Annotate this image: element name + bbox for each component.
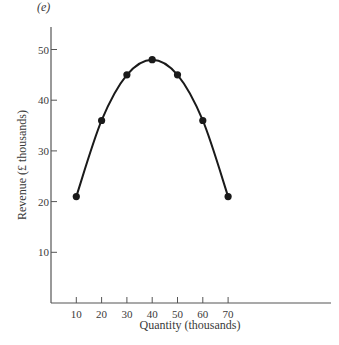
y-tick-label: 30	[38, 145, 50, 157]
data-point	[225, 193, 232, 200]
x-tick-label: 30	[121, 308, 133, 320]
data-point	[199, 117, 206, 124]
y-tick-label: 40	[38, 94, 50, 106]
y-tick-label: 20	[38, 196, 50, 208]
data-points	[73, 56, 232, 200]
data-point	[123, 71, 130, 78]
y-axis-label: Revenue (£ thousands)	[15, 110, 29, 220]
axis-ticks: 102030405010203040506070	[38, 44, 234, 321]
data-point	[98, 117, 105, 124]
revenue-chart: 102030405010203040506070 Quantity (thous…	[0, 0, 339, 345]
x-tick-label: 20	[96, 308, 108, 320]
x-tick-label: 10	[71, 308, 83, 320]
y-tick-label: 10	[38, 246, 50, 258]
revenue-curve	[76, 60, 228, 197]
data-point	[73, 193, 80, 200]
x-axis-label: Quantity (thousands)	[140, 318, 241, 332]
data-point	[149, 56, 156, 63]
data-point	[174, 71, 181, 78]
y-tick-label: 50	[38, 44, 50, 56]
axes	[51, 27, 331, 303]
